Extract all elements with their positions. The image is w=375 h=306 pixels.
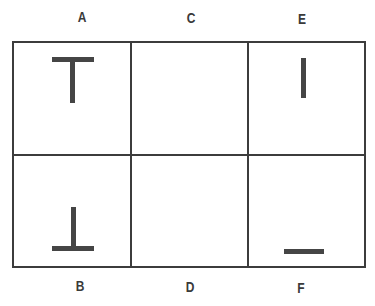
cell-e-vertical-bar — [301, 58, 306, 98]
label-c: C — [179, 9, 203, 26]
grid — [12, 41, 366, 268]
label-a: A — [70, 8, 94, 25]
cell-f-horizontal-bar — [284, 249, 324, 254]
grid-divider-middle — [14, 154, 364, 156]
label-f: F — [289, 279, 313, 296]
label-e: E — [290, 10, 314, 27]
label-b: B — [68, 277, 92, 294]
label-d: D — [178, 278, 202, 295]
